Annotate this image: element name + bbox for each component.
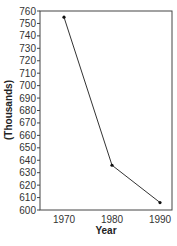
y-tick-label: 600: [19, 205, 36, 216]
x-tick-label: 1980: [101, 214, 124, 225]
plot-border: [40, 11, 172, 210]
y-tick-label: 680: [19, 105, 36, 116]
y-tick-label: 650: [19, 142, 36, 153]
plot-frame: [40, 11, 172, 210]
y-tick-label: 710: [19, 68, 36, 79]
y-tick-label: 760: [19, 6, 36, 17]
data-point: [62, 16, 65, 19]
x-tick-label: 1970: [53, 214, 76, 225]
y-tick-label: 660: [19, 130, 36, 141]
y-axis-title: (Thousands): [3, 80, 14, 140]
y-tick-label: 740: [19, 30, 36, 41]
line-chart: 6006106206306406506606706806907007107207…: [0, 0, 177, 246]
y-tick-label: 610: [19, 192, 36, 203]
y-tick-label: 730: [19, 43, 36, 54]
series-line: [64, 17, 160, 202]
y-tick-label: 630: [19, 167, 36, 178]
x-axis-title: Year: [95, 225, 116, 236]
data-point: [110, 164, 113, 167]
x-axis: 197019801990: [53, 214, 172, 225]
y-tick-label: 670: [19, 117, 36, 128]
data-series: [62, 16, 161, 205]
y-tick-label: 690: [19, 93, 36, 104]
data-point: [158, 201, 161, 204]
y-tick-label: 750: [19, 18, 36, 29]
y-axis: 6006106206306406506606706806907007107207…: [19, 6, 40, 216]
y-tick-label: 700: [19, 80, 36, 91]
x-tick-label: 1990: [149, 214, 172, 225]
y-tick-label: 720: [19, 55, 36, 66]
y-tick-label: 620: [19, 180, 36, 191]
y-tick-label: 640: [19, 155, 36, 166]
